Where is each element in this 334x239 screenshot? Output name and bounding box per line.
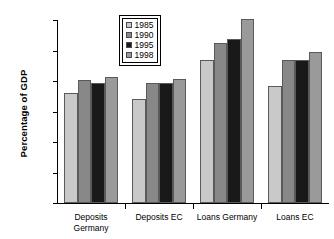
y-axis-tick [53, 51, 58, 52]
legend-swatch-icon [126, 32, 132, 38]
bar [282, 60, 296, 203]
y-axis-tick [53, 203, 58, 204]
bar [268, 86, 282, 203]
bar [64, 93, 78, 203]
bar [214, 43, 228, 203]
legend-item: 1995 [126, 40, 154, 50]
legend-swatch-icon [126, 22, 132, 28]
x-axis-tick [193, 204, 194, 209]
legend-item-label: 1998 [135, 51, 154, 60]
bar [78, 80, 92, 203]
x-axis-tick [125, 204, 126, 209]
legend-swatch-icon [126, 52, 132, 58]
legend-item-label: 1985 [135, 21, 154, 30]
y-axis-tick [53, 81, 58, 82]
plot-area: 0%25%50%75%100%125%150% Deposits Germany… [57, 20, 329, 203]
y-axis-tick [53, 20, 58, 21]
y-axis-tick [53, 142, 58, 143]
y-axis-tick [53, 173, 58, 174]
bar [159, 83, 173, 203]
legend-item-label: 1990 [135, 31, 154, 40]
legend-item: 1985 [126, 20, 154, 30]
y-axis-tick [53, 112, 58, 113]
x-axis-tick [261, 204, 262, 209]
bar [200, 60, 214, 203]
x-axis-category-label: Deposits Germany [57, 212, 125, 233]
bar [227, 39, 241, 203]
y-axis-title: Percentage of GDP [18, 39, 29, 189]
bar [241, 19, 255, 203]
legend-item: 1990 [126, 30, 154, 40]
x-axis-category-label: Deposits EC [125, 212, 193, 223]
bar [146, 83, 160, 203]
legend-item: 1998 [126, 50, 154, 60]
bar [173, 79, 187, 203]
bar [105, 77, 119, 203]
legend-item-label: 1995 [135, 41, 154, 50]
bar-chart: Percentage of GDP 0%25%50%75%100%125%150… [0, 0, 334, 239]
legend-inner: 1985199019951998 [122, 18, 159, 64]
legend: 1985199019951998 [119, 15, 161, 66]
bar [132, 99, 146, 203]
bar [309, 52, 323, 203]
x-axis-category-label: Loans Germany [193, 212, 261, 223]
x-axis-category-label: Loans EC [261, 212, 329, 223]
bar [91, 83, 105, 203]
bar [295, 60, 309, 203]
legend-swatch-icon [126, 42, 132, 48]
